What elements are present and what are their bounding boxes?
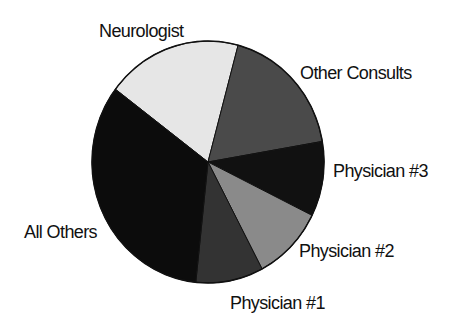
pie-chart: Neurologist Other Consults Physician #3 … <box>0 0 459 335</box>
label-all-others: All Others <box>24 222 98 242</box>
label-other-consults: Other Consults <box>300 63 412 83</box>
label-physician-3: Physician #3 <box>333 161 428 181</box>
label-physician-2: Physician #2 <box>299 241 394 261</box>
pie-slices <box>92 41 324 283</box>
label-neurologist: Neurologist <box>99 21 184 41</box>
label-physician-1: Physician #1 <box>230 293 325 313</box>
